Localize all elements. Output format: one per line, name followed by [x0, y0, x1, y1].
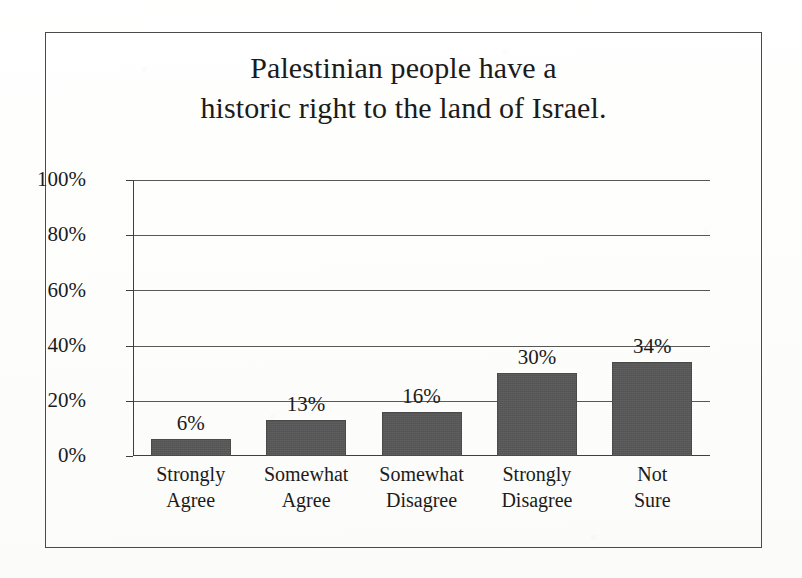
x-axis-label-somewhat-disagree: Somewhat Disagree: [364, 461, 479, 513]
bar-strongly-disagree: [497, 373, 577, 456]
chart-title-line-2: historic right to the land of Israel.: [45, 88, 762, 128]
bar-slot-strongly-agree: 6%: [133, 180, 248, 456]
x-axis-label-not-sure-line-2: Sure: [595, 487, 710, 513]
x-axis-label-strongly-disagree-line-1: Strongly: [479, 461, 594, 487]
x-axis-label-somewhat-disagree-line-2: Disagree: [364, 487, 479, 513]
bar-somewhat-disagree: [382, 412, 462, 456]
x-axis-labels: Strongly Agree Somewhat Agree Somewhat D…: [133, 461, 710, 513]
bar-value-strongly-disagree: 30%: [518, 345, 557, 370]
y-axis-tick-80: [126, 235, 133, 236]
bar-slot-not-sure: 34%: [595, 180, 710, 456]
bar-value-somewhat-disagree: 16%: [402, 384, 441, 409]
bar-somewhat-agree: [266, 420, 346, 456]
bar-strongly-agree: [151, 439, 231, 456]
bar-not-sure: [612, 362, 692, 456]
bar-slot-strongly-disagree: 30%: [479, 180, 594, 456]
bar-slot-somewhat-agree: 13%: [248, 180, 363, 456]
y-axis-tick-20: [126, 401, 133, 402]
x-axis-label-somewhat-agree-line-1: Somewhat: [248, 461, 363, 487]
y-axis-tick-40: [126, 346, 133, 347]
y-axis-label-100: 100%: [16, 167, 86, 192]
y-axis-label-0: 0%: [16, 443, 86, 468]
y-axis-label-60: 60%: [16, 278, 86, 303]
x-axis-label-strongly-agree-line-1: Strongly: [133, 461, 248, 487]
y-axis-tick-100: [126, 180, 133, 181]
x-axis-label-strongly-agree: Strongly Agree: [133, 461, 248, 513]
x-axis-label-strongly-disagree: Strongly Disagree: [479, 461, 594, 513]
y-axis-tick-0: [126, 456, 133, 457]
bar-value-strongly-agree: 6%: [177, 411, 205, 436]
chart-title: Palestinian people have a historic right…: [45, 48, 762, 128]
bar-value-not-sure: 34%: [633, 334, 672, 359]
bar-series: 6% 13% 16% 30% 34%: [133, 180, 710, 456]
y-axis-label-20: 20%: [16, 388, 86, 413]
x-axis-label-strongly-disagree-line-2: Disagree: [479, 487, 594, 513]
y-axis-tick-60: [126, 290, 133, 291]
chart-title-line-1: Palestinian people have a: [45, 48, 762, 88]
x-axis-label-somewhat-disagree-line-1: Somewhat: [364, 461, 479, 487]
bar-slot-somewhat-disagree: 16%: [364, 180, 479, 456]
y-axis-label-80: 80%: [16, 222, 86, 247]
bar-value-somewhat-agree: 13%: [287, 392, 326, 417]
y-axis-label-40: 40%: [16, 333, 86, 358]
x-axis-label-somewhat-agree-line-2: Agree: [248, 487, 363, 513]
x-axis-label-not-sure: Not Sure: [595, 461, 710, 513]
x-axis-label-strongly-agree-line-2: Agree: [133, 487, 248, 513]
x-axis-label-somewhat-agree: Somewhat Agree: [248, 461, 363, 513]
x-axis-label-not-sure-line-1: Not: [595, 461, 710, 487]
